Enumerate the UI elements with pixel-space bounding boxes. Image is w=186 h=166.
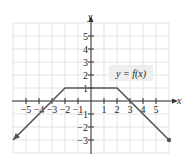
svg-text:5: 5 [83,31,88,42]
axes [12,16,178,154]
svg-text:3: 3 [83,57,88,68]
svg-text:2: 2 [115,104,120,115]
svg-text:−1: −1 [77,109,88,120]
svg-text:5: 5 [154,104,159,115]
svg-text:−5: −5 [21,104,32,115]
svg-text:−2: −2 [60,104,71,115]
svg-text:4: 4 [83,44,88,55]
x-axis-label: x [176,95,182,106]
svg-text:−2: −2 [77,122,88,133]
y-axis-label: y [87,11,93,22]
function-curve [13,88,171,142]
svg-text:1: 1 [102,104,107,115]
function-label: y = f(x) [109,65,153,81]
function-label-text: y = f(x) [115,68,147,80]
function-graph: −5−4−3−2−11234554321−1−2−3 y = f(x) x y [0,0,186,166]
svg-text:3: 3 [128,104,133,115]
svg-text:2: 2 [83,70,88,81]
svg-text:−3: −3 [77,135,88,146]
